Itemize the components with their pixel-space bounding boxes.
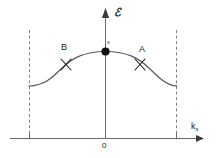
band-maximum-label: s (107, 39, 110, 46)
x-axis-label: kx (191, 122, 199, 132)
state-marker-B-label: B (61, 43, 67, 52)
band-maximum-dot (101, 47, 109, 55)
band-dispersion-curve (29, 52, 177, 87)
state-marker-A-label: A (139, 45, 145, 54)
x-axis-label-subscript: x (196, 126, 199, 132)
y-axis-arrowhead (102, 8, 109, 18)
x-axis-arrowhead (196, 135, 204, 142)
y-axis (102, 8, 109, 139)
band-structure-figure: ℰ s A B 0 kx (0, 0, 216, 158)
x-axis (10, 135, 204, 142)
state-marker-B-cross (61, 59, 71, 70)
origin-label: 0 (102, 142, 106, 150)
y-axis-label: ℰ (114, 7, 121, 18)
figure-canvas (0, 0, 216, 158)
